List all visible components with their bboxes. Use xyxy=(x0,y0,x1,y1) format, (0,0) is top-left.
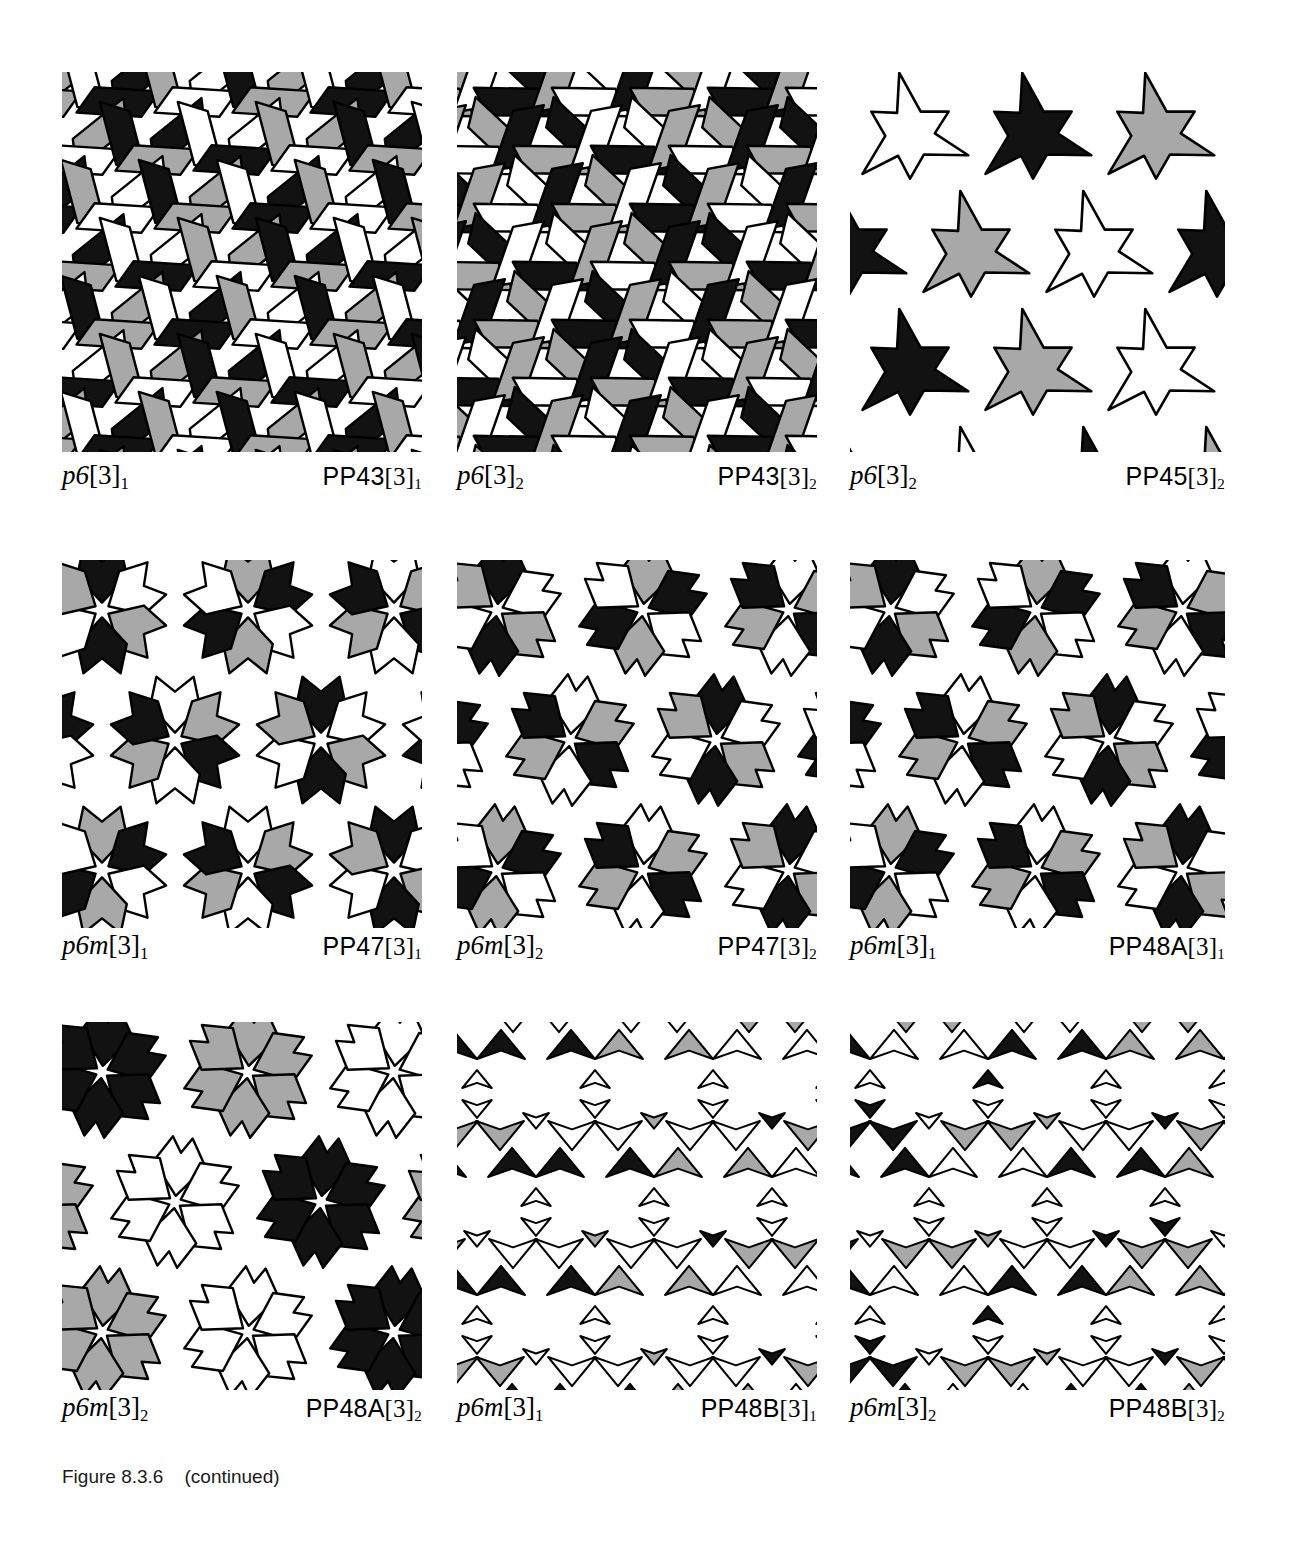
pattern-label-pp48b-3-2: PP48B[3]2 xyxy=(1109,1396,1225,1421)
symmetry-label-pp43-3-2: p6[3]2 xyxy=(457,462,524,489)
pattern-artwork-rosette-b xyxy=(457,560,817,928)
caption-row-pp43-3-1: p6[3]1 PP43[3]1 xyxy=(62,455,422,489)
caption-row-pp43-3-2: p6[3]2 PP43[3]2 xyxy=(457,455,817,489)
six-petal-rosette-variant-svg xyxy=(457,560,817,928)
pattern-panel-pp47-3-2 xyxy=(457,560,817,928)
pinwheel-star-tiling-svg xyxy=(850,72,1225,452)
six-petal-rosette-svg xyxy=(62,560,422,928)
pattern-panel-pp43-3-1 xyxy=(62,72,422,452)
pattern-artwork-dart-rosette-mono xyxy=(62,1022,422,1390)
symmetry-label-pp48b-3-2: p6m[3]2 xyxy=(850,1394,936,1421)
symmetry-label-pp45-3-2: p6[3]2 xyxy=(850,462,917,489)
symmetry-label-pp43-3-1: p6[3]1 xyxy=(62,462,129,489)
pattern-label-pp48a-3-1: PP48A[3]1 xyxy=(1109,934,1225,959)
six-dart-rosette-svg xyxy=(850,560,1225,928)
figure-sheet: p6[3]1 PP43[3]1 p6[3]2 PP43[3]2 p6[3]2 P… xyxy=(0,0,1289,1542)
pattern-panel-pp47-3-1 xyxy=(62,560,422,928)
caption-row-pp47-3-2: p6m[3]2 PP47[3]2 xyxy=(457,925,817,959)
six-dart-rosette-mono-svg xyxy=(62,1022,422,1390)
pattern-artwork-rosette-a xyxy=(62,560,422,928)
symmetry-label-pp47-3-1: p6m[3]1 xyxy=(62,932,148,959)
pattern-label-pp48a-3-2: PP48A[3]2 xyxy=(306,1396,422,1421)
symmetry-label-pp48a-3-2: p6m[3]2 xyxy=(62,1394,148,1421)
pattern-panel-pp48b-3-2 xyxy=(850,1022,1225,1390)
pattern-panel-pp48a-3-2 xyxy=(62,1022,422,1390)
pattern-label-pp43-3-1: PP43[3]1 xyxy=(323,464,422,489)
symmetry-label-pp48a-3-1: p6m[3]1 xyxy=(850,932,936,959)
symmetry-label-pp47-3-2: p6m[3]2 xyxy=(457,932,543,959)
caption-row-pp48a-3-2: p6m[3]2 PP48A[3]2 xyxy=(62,1387,422,1421)
caption-row-pp45-3-2: p6[3]2 PP45[3]2 xyxy=(850,455,1225,489)
concave-triangle-lattice-svg xyxy=(457,1022,817,1390)
pattern-panel-pp43-3-2 xyxy=(457,72,817,452)
symmetry-label-pp48b-3-1: p6m[3]1 xyxy=(457,1394,543,1421)
pattern-artwork-triangles-a xyxy=(457,1022,817,1390)
pattern-panel-pp48a-3-1 xyxy=(850,560,1225,928)
pattern-panel-pp45-3-2 xyxy=(850,72,1225,452)
pattern-artwork-rhombus-b xyxy=(457,72,817,452)
pattern-artwork-pinwheel-star xyxy=(850,72,1225,452)
rhombus-tiling-svg xyxy=(62,72,422,452)
concave-triangle-lattice-variant-svg xyxy=(850,1022,1225,1390)
pattern-artwork-dart-rosette-a xyxy=(850,560,1225,928)
caption-row-pp48b-3-2: p6m[3]2 PP48B[3]2 xyxy=(850,1387,1225,1421)
pattern-label-pp43-3-2: PP43[3]2 xyxy=(718,464,817,489)
pattern-panel-pp48b-3-1 xyxy=(457,1022,817,1390)
caption-row-pp48a-3-1: p6m[3]1 PP48A[3]1 xyxy=(850,925,1225,959)
pattern-label-pp48b-3-1: PP48B[3]1 xyxy=(701,1396,817,1421)
figure-caption: Figure 8.3.6 (continued) xyxy=(62,1466,280,1488)
pattern-label-pp47-3-1: PP47[3]1 xyxy=(323,934,422,959)
pattern-artwork-rhombus-a xyxy=(62,72,422,452)
pattern-label-pp45-3-2: PP45[3]2 xyxy=(1126,464,1225,489)
pattern-artwork-triangles-b xyxy=(850,1022,1225,1390)
pattern-label-pp47-3-2: PP47[3]2 xyxy=(718,934,817,959)
caption-row-pp48b-3-1: p6m[3]1 PP48B[3]1 xyxy=(457,1387,817,1421)
rhombus-tiling-mirrored-svg xyxy=(457,72,817,452)
caption-row-pp47-3-1: p6m[3]1 PP47[3]1 xyxy=(62,925,422,959)
